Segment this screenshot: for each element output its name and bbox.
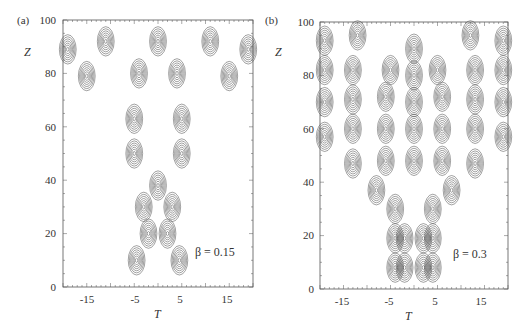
panel-a-label: (a) xyxy=(17,14,30,27)
panel-b-xticks: -15 -5 5 15 xyxy=(335,295,487,307)
panel-a: (a) Z T 100 80 60 40 20 0 -15 -5 5 15 β … xyxy=(0,0,265,334)
svg-text:-15: -15 xyxy=(80,293,95,305)
svg-text:5: 5 xyxy=(432,295,438,307)
panel-b-ylabel: Z xyxy=(275,45,282,59)
svg-text:5: 5 xyxy=(177,293,183,305)
panel-a-annotation: β = 0.15 xyxy=(195,245,235,259)
panel-a-xticks: -15 -5 5 15 xyxy=(80,293,233,305)
panel-b-annotation: β = 0.3 xyxy=(453,247,487,261)
panel-a-ylabel: Z xyxy=(24,45,31,59)
svg-text:15: 15 xyxy=(476,295,488,307)
svg-text:0: 0 xyxy=(309,283,315,295)
svg-text:0: 0 xyxy=(51,281,57,293)
panel-b-yticks: 100 80 60 40 20 0 xyxy=(298,16,315,295)
svg-text:60: 60 xyxy=(45,121,57,133)
svg-text:60: 60 xyxy=(303,123,315,135)
svg-text:-15: -15 xyxy=(335,295,350,307)
panel-b-xlabel: T xyxy=(405,309,413,323)
svg-text:100: 100 xyxy=(298,16,315,28)
svg-text:80: 80 xyxy=(45,67,57,79)
svg-text:40: 40 xyxy=(303,176,315,188)
svg-text:80: 80 xyxy=(303,69,315,81)
panel-a-yticks: 100 80 60 40 20 0 xyxy=(40,14,57,293)
svg-text:-5: -5 xyxy=(130,293,140,305)
svg-text:100: 100 xyxy=(40,14,57,26)
panel-b: (b) Z T 100 80 60 40 20 0 -15 -5 5 15 β … xyxy=(265,0,531,334)
svg-text:20: 20 xyxy=(303,229,315,241)
panel-a-xlabel: T xyxy=(154,307,162,321)
svg-text:40: 40 xyxy=(45,174,57,186)
svg-text:15: 15 xyxy=(222,293,234,305)
svg-text:-5: -5 xyxy=(384,295,394,307)
panel-b-label: (b) xyxy=(265,14,278,27)
svg-text:20: 20 xyxy=(45,227,57,239)
